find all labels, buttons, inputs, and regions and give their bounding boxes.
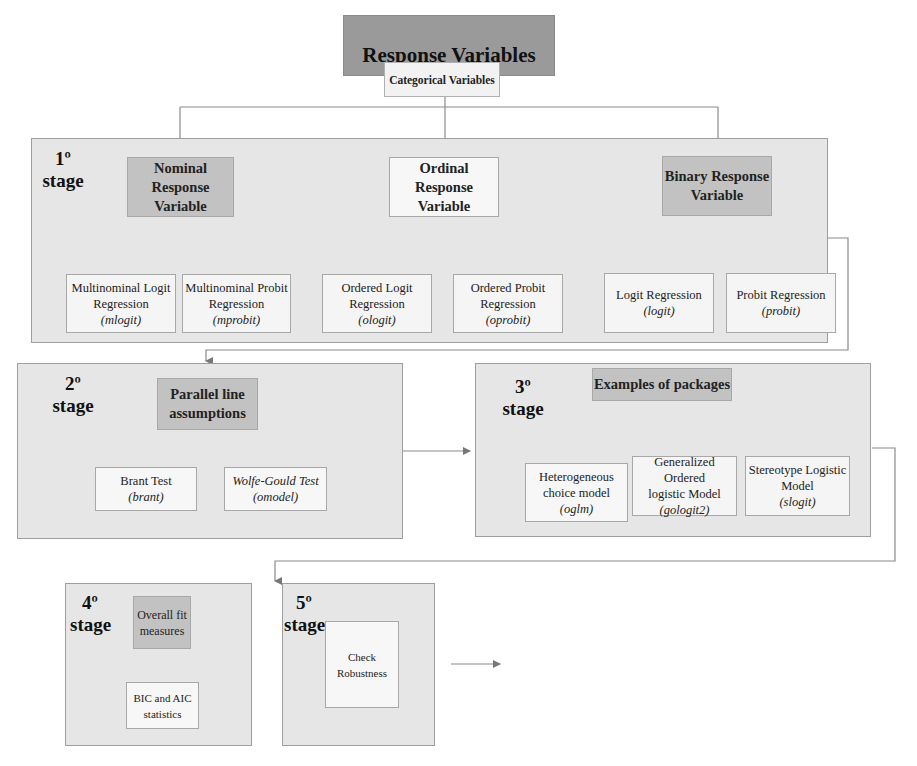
stage-3-label: 3º stage [498, 376, 548, 420]
stage-2-label: 2º stage [48, 373, 98, 417]
model-box-oprobit: Ordered Probit Regression (oprobit) [453, 274, 563, 333]
model-box-mlogit: Multinominal Logit Regression (mlogit) [66, 274, 176, 333]
package-box-slogit: Stereotype Logistic Model (slogit) [745, 456, 850, 516]
package-box-gologit2: Generalized Ordered logistic Model (golo… [632, 456, 737, 516]
nominal-response-box: Nominal Response Variable [127, 157, 234, 217]
parallel-line-assumptions-box: Parallel line assumptions [157, 378, 258, 430]
stage-1-label: 1º stage [38, 148, 88, 192]
binary-response-box: Binary Response Variable [662, 156, 772, 216]
package-box-oglm: Heterogeneous choice model (oglm) [525, 463, 628, 522]
examples-of-packages-box: Examples of packages [592, 368, 732, 401]
model-box-probit: Probit Regression (probit) [726, 273, 836, 333]
wolfe-gould-test-box: Wolfe-Gould Test (omodel) [224, 467, 327, 511]
stage-5-label: 5º stage [284, 592, 324, 636]
stage-4-label: 4º stage [70, 592, 110, 636]
categorical-variables-box: Categorical Variables [384, 62, 500, 97]
model-box-logit: Logit Regression (logit) [604, 273, 714, 333]
model-box-ologit: Ordered Logit Regression (ologit) [322, 274, 432, 333]
model-box-mprobit: Multinominal Probit Regression (mprobit) [182, 274, 291, 333]
check-robustness-box: Check Robustness [325, 621, 399, 708]
ordinal-response-box: Ordinal Response Variable [389, 157, 499, 217]
subtitle-text: Categorical Variables [389, 74, 495, 86]
overall-fit-measures-box: Overall fit measures [133, 596, 191, 649]
bic-aic-statistics-box: BIC and AIC statistics [126, 682, 199, 729]
brant-test-box: Brant Test (brant) [95, 467, 197, 511]
